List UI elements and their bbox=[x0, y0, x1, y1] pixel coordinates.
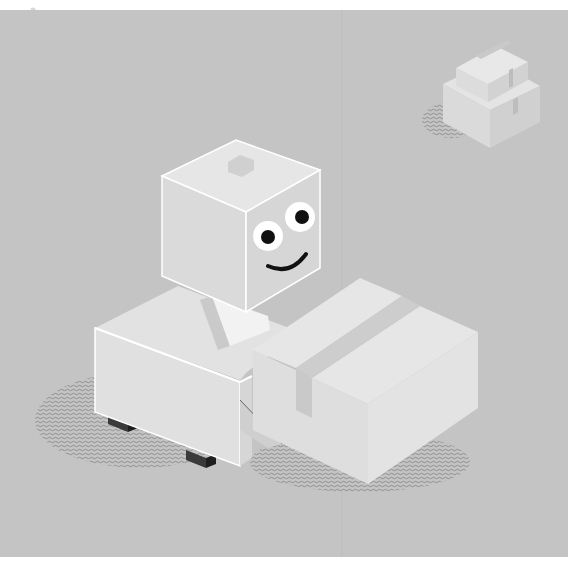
corner-artifact bbox=[28, 0, 38, 8]
illustration-canvas bbox=[0, 10, 568, 557]
